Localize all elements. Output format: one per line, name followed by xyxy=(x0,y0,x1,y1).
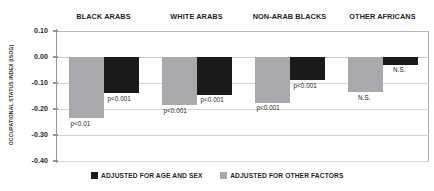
bar-black-1 xyxy=(197,57,232,95)
bar-annotation-gray-2: p<0.001 xyxy=(257,104,280,111)
legend-label-age-and-sex: ADJUSTED FOR AGE AND SEX xyxy=(101,172,203,179)
bar-annotation-black-0: p<0.001 xyxy=(108,95,131,102)
y-tick-label: 0.00 xyxy=(8,53,48,60)
y-tick-label: -0.40 xyxy=(8,157,48,164)
group-header-row: BLACK ARABS WHITE ARABS NON-ARAB BLACKS … xyxy=(57,12,429,24)
legend: ADJUSTED FOR AGE AND SEX ADJUSTED FOR OT… xyxy=(0,172,434,179)
legend-item-age-and-sex: ADJUSTED FOR AGE AND SEX xyxy=(91,172,203,179)
group-header-non-arab-blacks: NON-ARAB BLACKS xyxy=(243,12,336,24)
bar-black-0 xyxy=(104,57,139,93)
bar-annotation-gray-0: p<0.01 xyxy=(71,120,91,127)
y-tick-label: -0.30 xyxy=(8,131,48,138)
y-tick-label: -0.10 xyxy=(8,79,48,86)
bar-annotation-black-1: p<0.001 xyxy=(201,96,224,103)
bar-black-3 xyxy=(383,57,418,65)
bar-gray-2 xyxy=(255,57,290,103)
y-tick-label: -0.20 xyxy=(8,105,48,112)
bars-layer: p<0.01p<0.001p<0.001p<0.001p<0.001p<0.00… xyxy=(57,31,429,161)
occupational-status-bar-chart: OCCUPATIONAL STATUS INDEX (ISOG) BLACK A… xyxy=(0,0,434,191)
bar-annotation-gray-3: N.S. xyxy=(358,94,370,101)
plot-area: p<0.01p<0.001p<0.001p<0.001p<0.001p<0.00… xyxy=(57,31,429,161)
y-tick-label: 0.10 xyxy=(8,27,48,34)
legend-swatch-icon-black xyxy=(91,172,98,179)
bar-black-2 xyxy=(290,57,325,80)
bar-annotation-black-3: N.S. xyxy=(393,66,405,73)
group-header-white-arabs: WHITE ARABS xyxy=(150,12,243,24)
bar-gray-1 xyxy=(162,57,197,105)
bar-annotation-black-2: p<0.001 xyxy=(294,82,317,89)
legend-item-other-factors: ADJUSTED FOR OTHER FACTORS xyxy=(220,172,344,179)
bar-gray-0 xyxy=(69,57,104,118)
bar-annotation-gray-1: p<0.001 xyxy=(164,107,187,114)
bar-gray-3 xyxy=(348,57,383,92)
legend-label-other-factors: ADJUSTED FOR OTHER FACTORS xyxy=(230,172,343,179)
legend-swatch-icon-gray xyxy=(220,172,227,179)
group-header-other-africans: OTHER AFRICANS xyxy=(336,12,429,24)
y-axis-title: OCCUPATIONAL STATUS INDEX (ISOG) xyxy=(8,25,14,165)
group-header-black-arabs: BLACK ARABS xyxy=(57,12,150,24)
